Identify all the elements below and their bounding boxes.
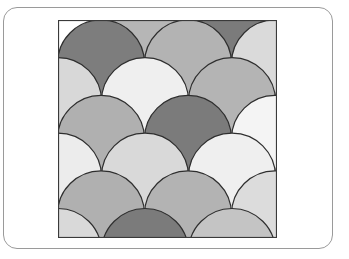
scale-pattern-figure [58,20,277,238]
scale-pattern-svg [58,20,277,238]
